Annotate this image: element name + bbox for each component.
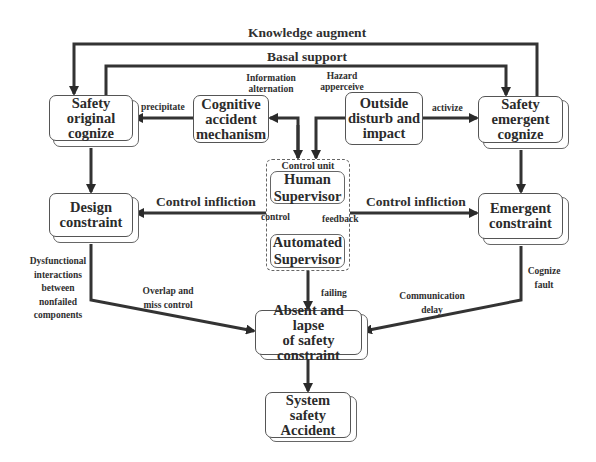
label-knowledge-augment: Knowledge augment — [248, 26, 366, 40]
node-emergent-constraint: Emergent constraint — [478, 193, 563, 239]
label-activize: activize — [432, 103, 463, 114]
node-design-constraint: Design constraint — [49, 193, 133, 237]
edge-basal-support — [106, 66, 506, 95]
label-overlap-miss-control: Overlap and miss control — [134, 285, 202, 312]
edge-information-alternation-up — [270, 118, 298, 158]
node-automated-supervisor: Automated Supervisor — [270, 234, 345, 268]
node-cognitive-accident-mechanism: Cognitive accident mechanism — [193, 95, 269, 143]
label-dysfunctional-interactions: Dysfunctional interactions between nonfa… — [22, 255, 94, 323]
node-safety-original-cognize: Safety original cognize — [49, 95, 133, 141]
label-control-infliction-left: Control infliction — [156, 195, 256, 209]
node-absent-lapse-safety-constraint: Absent and lapse of safety constraint — [255, 310, 362, 355]
label-failing: failing — [321, 288, 347, 299]
label-feedback: feedback — [322, 214, 358, 225]
control-unit-title: Control unit — [266, 160, 350, 171]
label-control-infliction-right: Control infliction — [366, 195, 466, 209]
node-human-supervisor: Human Supervisor — [270, 171, 345, 204]
label-basal-support: Basal support — [267, 50, 347, 64]
label-control: control — [261, 212, 290, 223]
node-system-safety-accident: System safety Accident — [265, 392, 351, 438]
label-cognize-fault: Cognize fault — [522, 265, 566, 292]
node-safety-emergent-cognize: Safety emergent cognize — [478, 96, 563, 143]
edge-hazard-apperceive — [316, 118, 345, 158]
label-hazard-apperceive: Hazard apperceive — [313, 71, 371, 93]
label-information-alternation: Information alternation — [240, 73, 302, 95]
edge-communication-delay — [364, 246, 521, 331]
label-precipitate: precipitate — [141, 102, 185, 113]
label-communication-delay: Communication delay — [392, 290, 472, 317]
node-outside-disturb-impact: Outside disturb and impact — [345, 92, 423, 145]
